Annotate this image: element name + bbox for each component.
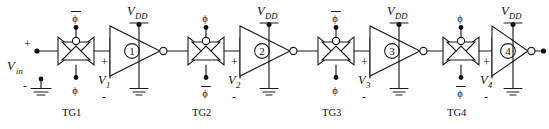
input-voltage-subscript: in xyxy=(16,66,23,76)
tg4-top-clock-dot xyxy=(459,25,464,30)
tg4-top-clock-label: ϕ xyxy=(457,13,463,24)
tg3-bottom-clock-label: ϕ xyxy=(332,85,338,96)
tg3-top-clock-label: ϕ xyxy=(332,13,338,24)
v3-minus-sign: - xyxy=(362,90,366,104)
tg2-top-clock-dot xyxy=(204,25,209,30)
tg2-bottom-clock-label: ϕ xyxy=(202,88,208,99)
tg3-top-clock-dot xyxy=(334,25,339,30)
v1-minus-sign: - xyxy=(102,90,106,104)
v3-plus-sign: + xyxy=(361,55,368,69)
v4-plus-sign: + xyxy=(483,55,490,69)
input-ground-symbol xyxy=(31,77,51,95)
tg2-pmos-bubble xyxy=(202,37,209,44)
tg4-pmos-bubble xyxy=(457,37,464,44)
v1-subscript: 1 xyxy=(106,80,110,90)
inverter-4[interactable]: 4 V DD xyxy=(492,4,535,95)
tg1-bottom-clock-label: ϕ xyxy=(72,85,78,96)
inverter-2[interactable]: 2 V DD xyxy=(240,4,297,95)
transmission-gate-tg3[interactable]: ϕ ϕ TG3 xyxy=(318,12,354,119)
tg1-bottom-clock-dot xyxy=(74,75,79,80)
tg1-top-clock-dot xyxy=(74,25,79,30)
tg3-name-label: TG3 xyxy=(322,107,341,118)
output-terminal-dot xyxy=(541,48,546,53)
tg3-pmos-bubble xyxy=(332,37,339,44)
inverter-3[interactable]: 3 V DD xyxy=(370,4,427,95)
input-voltage-label: V xyxy=(7,59,16,73)
inv1-vdd-subscript: DD xyxy=(134,11,148,21)
tg1-top-clock-label: ϕ xyxy=(72,13,78,24)
inv3-number-label: 3 xyxy=(389,45,395,57)
input-source-group: + V in - xyxy=(7,37,58,95)
v2-minus-sign: - xyxy=(232,90,236,104)
inverter-1[interactable]: 1 V DD xyxy=(110,4,167,95)
tg1-name-label: TG1 xyxy=(62,107,81,118)
inv3-output-bubble xyxy=(420,47,427,54)
schematic-canvas: + V in - ϕ ϕ TG1 xyxy=(0,0,549,129)
inv1-output-bubble xyxy=(160,47,167,54)
inv4-vdd-subscript: DD xyxy=(508,11,522,21)
inv2-output-bubble xyxy=(290,47,297,54)
tg2-name-label: TG2 xyxy=(192,107,211,118)
transmission-gate-tg4[interactable]: ϕ ϕ TG4 xyxy=(443,13,479,118)
v1-plus-sign: + xyxy=(101,55,108,69)
tg3-bottom-clock-dot xyxy=(334,75,339,80)
tg4-bottom-clock-dot xyxy=(459,75,464,80)
inv3-triangle xyxy=(370,26,420,76)
inv2-vdd-subscript: DD xyxy=(264,11,278,21)
tg4-name-label: TG4 xyxy=(447,107,467,118)
v2-plus-sign: + xyxy=(231,55,238,69)
inv4-number-label: 4 xyxy=(505,45,511,57)
input-plus-sign: + xyxy=(24,37,31,51)
tg4-bottom-clock-label: ϕ xyxy=(457,88,463,99)
inv1-number-label: 1 xyxy=(129,45,135,57)
inv3-vdd-subscript: DD xyxy=(394,11,408,21)
v3-subscript: 3 xyxy=(365,80,370,90)
inv2-triangle xyxy=(240,26,290,76)
transmission-gate-tg1[interactable]: ϕ ϕ TG1 xyxy=(58,12,94,119)
tg1-pmos-bubble xyxy=(72,37,79,44)
transmission-gate-tg2[interactable]: ϕ ϕ TG2 xyxy=(188,13,224,118)
tg2-top-clock-label: ϕ xyxy=(202,13,208,24)
circuit-schematic-figure: + V in - ϕ ϕ TG1 xyxy=(0,0,549,129)
tg2-bottom-clock-dot xyxy=(204,75,209,80)
input-minus-sign: - xyxy=(23,79,27,93)
v4-minus-sign: - xyxy=(484,90,488,104)
output-node-group xyxy=(535,48,546,53)
v2-subscript: 2 xyxy=(236,80,241,90)
inv2-number-label: 2 xyxy=(259,45,265,57)
v4-subscript: 4 xyxy=(488,80,493,90)
inv4-output-bubble xyxy=(528,47,535,54)
inv1-triangle xyxy=(110,26,160,76)
